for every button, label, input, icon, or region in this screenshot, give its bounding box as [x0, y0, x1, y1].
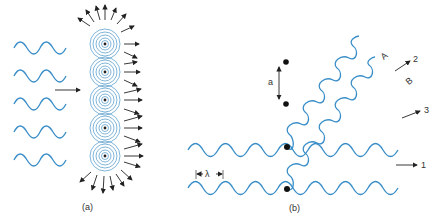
figure-caption	[14, 215, 434, 224]
direction-label-2: 2	[413, 54, 418, 64]
direction-label-3: 3	[424, 105, 429, 115]
diffraction-figure: (a) a λ A B	[0, 0, 440, 224]
scatterers	[90, 29, 120, 171]
spacing-label: a	[268, 77, 273, 87]
direction-label-1: 1	[421, 160, 426, 170]
atom-top	[284, 144, 290, 150]
incident-waves	[14, 42, 66, 166]
panel-a: (a)	[14, 5, 143, 212]
ray-label-b: B	[403, 75, 414, 87]
panel-b: a λ A B 2 3 1 (b)	[188, 36, 429, 213]
panel-b-label: (b)	[289, 203, 300, 213]
wavelength-indicator: λ	[196, 169, 223, 179]
ray-label-a: A	[378, 50, 389, 62]
direction-arrows: 2 3 1	[395, 54, 429, 170]
wavelength-label: λ	[205, 169, 210, 179]
atom-bottom	[284, 186, 290, 192]
panel-a-label: (a)	[82, 202, 93, 212]
spacing-indicator: a	[268, 59, 289, 107]
